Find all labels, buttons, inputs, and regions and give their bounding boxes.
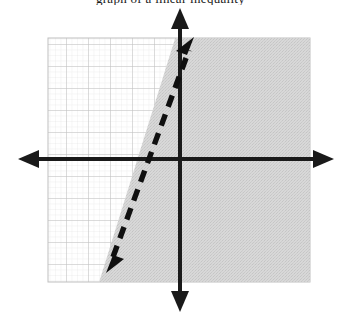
inequality-graph-figure: graph of a linear inequality [0, 0, 341, 319]
y-axis-down-arrow-icon [171, 291, 189, 312]
x-axis-left-arrow-icon [18, 150, 39, 168]
figure-title: graph of a linear inequality [0, 0, 341, 5]
coordinate-plane-svg [0, 0, 341, 319]
x-axis-right-arrow-icon [313, 150, 334, 168]
y-axis-up-arrow-icon [171, 8, 189, 29]
